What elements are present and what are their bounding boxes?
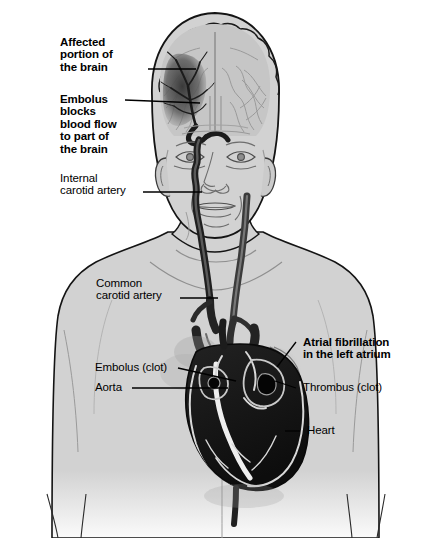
label-affected-brain: Affected portion of the brain (60, 36, 113, 73)
stroke-illustration-figure: Affected portion of the brain Embolus bl… (0, 0, 431, 538)
anatomy-artwork (0, 0, 431, 538)
label-atrial-fibrillation: Atrial fibrillation in the left atrium (303, 336, 391, 361)
label-internal-carotid-artery: Internal carotid artery (60, 172, 126, 197)
label-thrombus-clot: Thrombus (clot) (303, 381, 382, 393)
label-embolus-clot: Embolus (clot) (95, 361, 167, 373)
head-shape (150, 13, 285, 240)
label-aorta: Aorta (95, 381, 122, 393)
label-embolus-blocks: Embolus blocks blood flow to part of the… (60, 93, 116, 155)
label-common-carotid-artery: Common carotid artery (96, 277, 162, 302)
label-heart: Heart (307, 424, 335, 436)
